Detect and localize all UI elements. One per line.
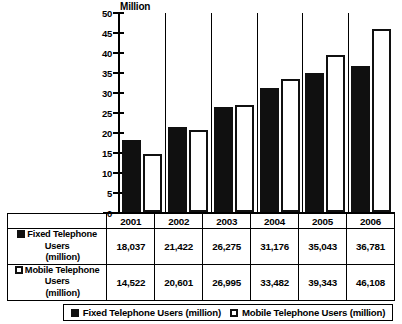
table-value-fixed-2004: 31,176	[251, 229, 299, 265]
y-axis-tick-label-35: 35	[92, 68, 112, 79]
table-value-mobile-2006: 46,108	[347, 264, 395, 300]
y-axis-tick-label-20: 20	[92, 128, 112, 139]
row-label-mobile: Mobile Telephone Users (million)	[8, 264, 107, 300]
chart-screenshot: Million 05101520253035404550 20012002200…	[0, 0, 402, 324]
y-axis-tick-label-45: 45	[92, 28, 112, 39]
bar-group-2004	[258, 13, 304, 212]
table-year-2003: 2003	[203, 214, 251, 229]
category-divider-2002	[165, 13, 166, 212]
bar-mobile-2001	[143, 154, 162, 212]
y-axis-tick-label-50: 50	[92, 8, 112, 19]
plot-area	[120, 13, 395, 212]
chart-legend: Fixed Telephone Users (million) Mobile T…	[63, 304, 393, 321]
bar-group-2001	[120, 13, 166, 212]
legend-label-fixed: Fixed Telephone Users (million)	[83, 307, 221, 318]
y-axis-tick-label-5: 5	[92, 188, 112, 199]
table-value-fixed-2003: 26,275	[203, 229, 251, 265]
bar-mobile-2005	[326, 55, 345, 212]
y-axis-tick-label-40: 40	[92, 48, 112, 59]
legend-swatch-mobile-icon	[230, 309, 238, 317]
bar-chart: Million 05101520253035404550	[0, 0, 402, 216]
bar-mobile-2004	[281, 79, 300, 212]
legend-label-mobile: Mobile Telephone Users (million)	[242, 307, 385, 318]
row-label-fixed: Fixed Telephone Users (million)	[8, 229, 107, 265]
table-value-mobile-2001: 14,522	[107, 264, 155, 300]
legend-swatch-mobile-icon	[15, 266, 23, 274]
table-year-2006: 2006	[347, 214, 395, 229]
table-row-mobile: Mobile Telephone Users (million) 14,5222…	[8, 264, 395, 300]
y-axis-tick-label-10: 10	[92, 168, 112, 179]
table-corner-cell	[8, 214, 107, 229]
table-value-fixed-2005: 35,043	[299, 229, 347, 265]
row-label-fixed-line2: (million)	[8, 252, 106, 264]
y-axis-unit-label: Million	[120, 1, 150, 12]
table-year-2001: 2001	[107, 214, 155, 229]
bar-fixed-2001	[122, 140, 141, 212]
bar-fixed-2002	[168, 127, 187, 212]
y-axis-tick-label-25: 25	[92, 108, 112, 119]
row-label-mobile-line1: Mobile Telephone Users	[25, 265, 100, 287]
table-year-2002: 2002	[155, 214, 203, 229]
table-value-fixed-2006: 36,781	[347, 229, 395, 265]
y-axis-tick-label-30: 30	[92, 88, 112, 99]
row-label-fixed-line1: Fixed Telephone Users	[27, 229, 97, 251]
table-row-years: 200120022003200420052006	[8, 214, 395, 229]
bar-fixed-2005	[305, 73, 324, 212]
bar-mobile-2003	[235, 105, 254, 212]
bar-group-2005	[303, 13, 349, 212]
category-divider-2003	[211, 13, 212, 212]
table-year-2005: 2005	[299, 214, 347, 229]
bar-group-2006	[349, 13, 395, 212]
bar-group-2003	[212, 13, 258, 212]
bar-fixed-2004	[260, 88, 279, 212]
legend-swatch-fixed-icon	[17, 230, 25, 238]
table-year-2004: 2004	[251, 214, 299, 229]
table-value-fixed-2002: 21,422	[155, 229, 203, 265]
table-row-fixed: Fixed Telephone Users (million) 18,03721…	[8, 229, 395, 265]
table-value-fixed-2001: 18,037	[107, 229, 155, 265]
legend-swatch-fixed-icon	[71, 309, 79, 317]
bar-fixed-2003	[214, 107, 233, 212]
bar-mobile-2002	[189, 130, 208, 212]
table-value-mobile-2003: 26,995	[203, 264, 251, 300]
bar-group-2002	[166, 13, 212, 212]
table-value-mobile-2004: 33,482	[251, 264, 299, 300]
data-table: 200120022003200420052006 Fixed Telephone…	[7, 213, 395, 301]
table-value-mobile-2005: 39,343	[299, 264, 347, 300]
y-axis-tick-label-15: 15	[92, 148, 112, 159]
category-divider-2006	[348, 13, 349, 212]
row-label-mobile-line2: (million)	[8, 288, 106, 300]
bar-fixed-2006	[351, 66, 370, 212]
legend-item-fixed: Fixed Telephone Users (million)	[71, 307, 221, 318]
legend-item-mobile: Mobile Telephone Users (million)	[230, 307, 385, 318]
category-divider-2004	[257, 13, 258, 212]
category-divider-2005	[302, 13, 303, 212]
table-value-mobile-2002: 20,601	[155, 264, 203, 300]
bar-mobile-2006	[372, 29, 391, 213]
